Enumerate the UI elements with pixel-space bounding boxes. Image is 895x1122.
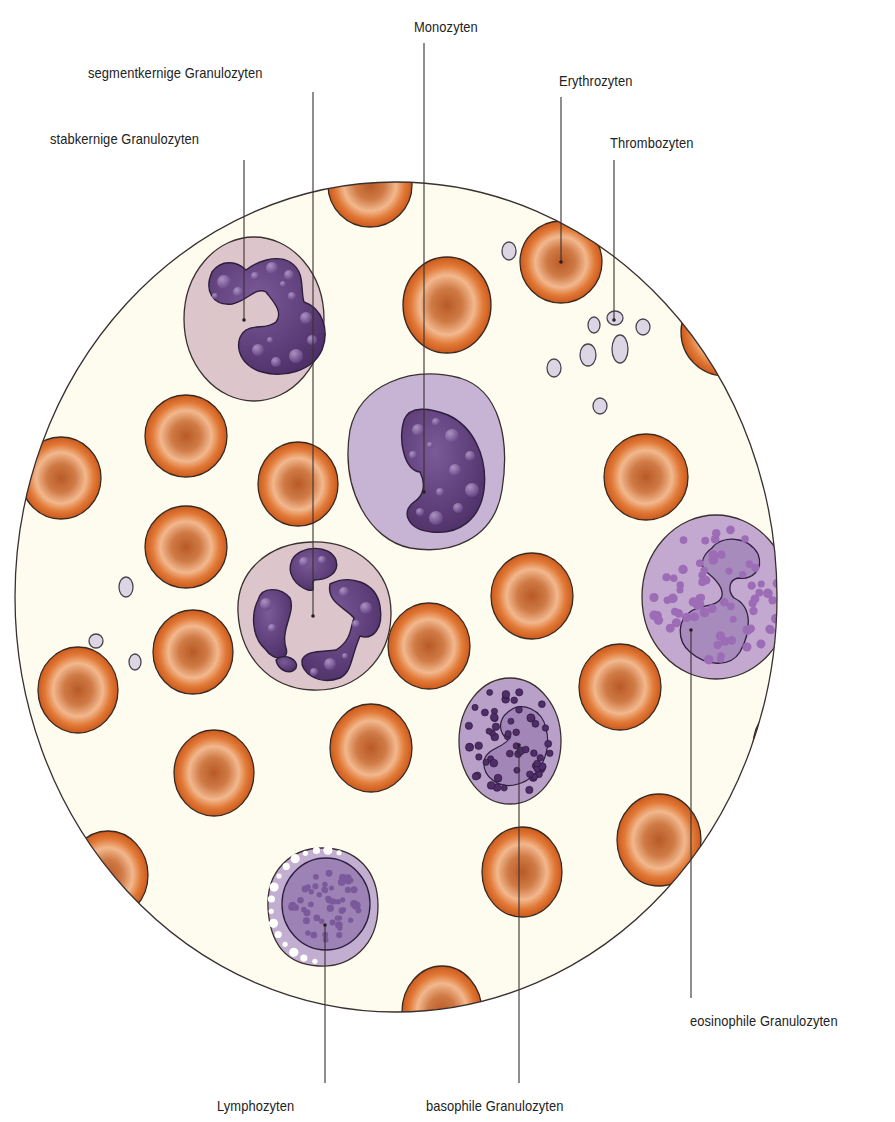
thrombocyte xyxy=(129,654,141,670)
leader-dot-stabkernige xyxy=(242,318,246,322)
label-segmentkernige-granulozyten: segmentkernige Granulozyten xyxy=(88,64,262,81)
blood-smear-diagram: Monozyten segmentkernige Granulozyten st… xyxy=(0,0,895,1122)
eosinophil-cell xyxy=(642,515,790,679)
erythrocyte xyxy=(258,442,338,526)
thrombocyte xyxy=(607,311,623,325)
label-lymphozyten: Lymphozyten xyxy=(217,1097,294,1114)
leader-dot-basophile xyxy=(517,743,521,747)
thrombocyte xyxy=(612,335,628,363)
erythrocyte xyxy=(681,288,769,376)
erythrocyte xyxy=(68,831,148,919)
erythrocyte xyxy=(604,434,688,520)
blood-smear-illustration xyxy=(0,0,895,1122)
erythrocyte xyxy=(388,603,470,689)
leader-dot-lymphozyten xyxy=(323,923,327,927)
leader-dot-erythrozyten xyxy=(559,260,563,264)
erythrocyte xyxy=(145,395,227,477)
thrombocyte xyxy=(119,577,133,597)
leader-dot-segmentkernige xyxy=(311,614,315,618)
erythrocyte xyxy=(491,553,573,639)
erythrocyte xyxy=(330,704,412,792)
thrombocyte xyxy=(588,317,600,333)
erythrocyte xyxy=(38,647,118,733)
lymphocyte-cell xyxy=(268,846,378,966)
thrombocyte xyxy=(547,359,561,377)
erythrocyte xyxy=(579,644,661,730)
erythrocyte xyxy=(174,730,254,816)
thrombocyte xyxy=(89,634,103,648)
erythrocyte xyxy=(617,794,701,886)
band-neutrophil-cell xyxy=(184,237,325,401)
monocyte-cell xyxy=(348,374,504,550)
thrombocyte xyxy=(636,319,650,335)
label-eosinophile-granulozyten: eosinophile Granulozyten xyxy=(690,1012,838,1029)
thrombocyte xyxy=(593,398,607,414)
thrombocyte xyxy=(580,344,596,366)
thrombocyte xyxy=(502,242,516,260)
erythrocyte xyxy=(145,506,227,588)
erythrocyte xyxy=(482,827,562,917)
label-monozyten: Monozyten xyxy=(414,18,478,35)
erythrocyte xyxy=(753,702,833,790)
label-erythrozyten: Erythrozyten xyxy=(559,72,632,89)
erythrocyte xyxy=(21,437,101,519)
erythrocyte xyxy=(328,143,412,227)
label-basophile-granulozyten: basophile Granulozyten xyxy=(426,1097,563,1114)
leader-dot-eosinophile xyxy=(689,628,693,632)
erythrocyte xyxy=(403,257,491,353)
label-stabkernige-granulozyten: stabkernige Granulozyten xyxy=(50,130,199,147)
leader-dot-monozyten xyxy=(422,490,426,494)
leader-dot-thrombozyten xyxy=(612,318,616,322)
erythrocyte xyxy=(153,610,233,694)
basophil-cell xyxy=(459,678,561,804)
label-thrombozyten: Thrombozyten xyxy=(610,134,693,151)
